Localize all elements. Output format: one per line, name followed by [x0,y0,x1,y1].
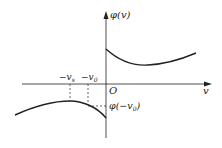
y-axis-label-arg: v [121,9,127,20]
tick-label-v0: −v0 [81,73,97,83]
y-axis-label: φ(v) [110,10,130,20]
phi-minus-v0-label: φ(−v0) [109,101,140,112]
lower-branch-curve [15,101,106,118]
origin-label: O [109,86,117,96]
tick-label-v0-sub: 0 [94,76,98,83]
x-axis-label: v [203,86,209,96]
tick-label-vs-sub: s [72,76,75,83]
phi-label-fn: φ(−v [109,100,133,111]
tick-label-vs: −vs [59,73,75,83]
y-axis-label-fn: φ [110,9,117,20]
diagram-canvas [0,0,222,148]
upper-branch-curve [106,49,196,65]
phi-label-close: ) [137,100,141,111]
tick-label-v0-prefix: −v [81,72,94,82]
y-axis-arrow-icon [104,11,109,19]
tick-label-vs-prefix: −v [59,72,72,82]
